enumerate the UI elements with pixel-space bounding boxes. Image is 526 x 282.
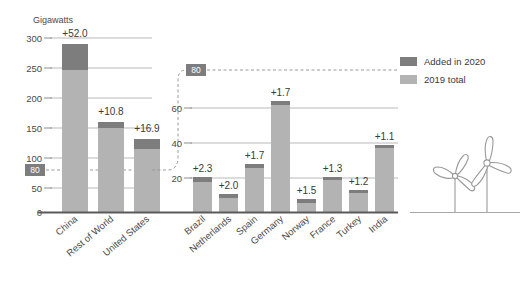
y-tick-250: 250 <box>26 63 42 74</box>
legend-swatch-added-2020 <box>400 57 417 66</box>
bar-china[interactable]: +52.0 <box>62 28 88 212</box>
bar-turkey[interactable]: +1.2 <box>349 176 369 212</box>
inset-category-labels: Brazil Netherlands Spain Germany Norway … <box>182 213 390 255</box>
inset-y-tick-20: 20 <box>171 173 182 184</box>
cat-france: France <box>308 213 338 240</box>
bar-turkey-delta: +1.2 <box>349 176 369 187</box>
y-tick-200: 200 <box>26 93 42 104</box>
legend-swatch-2019-total <box>400 75 417 84</box>
inset-y-tick-60: 60 <box>171 103 182 114</box>
inset-gridlines <box>190 108 398 178</box>
bar-germany[interactable]: +1.7 <box>271 87 291 212</box>
main-category-labels: China Rest of World United States <box>53 213 151 259</box>
bar-germany-delta: +1.7 <box>271 87 291 98</box>
legend-label-2019-total: 2019 total <box>424 74 466 85</box>
bar-united-states[interactable]: +16.9 <box>134 123 160 212</box>
bar-norway[interactable]: +1.5 <box>297 185 317 212</box>
legend: Added in 2020 2019 total <box>400 56 485 85</box>
y-tick-100: 100 <box>26 153 42 164</box>
y-axis-title: Gigawatts <box>33 15 74 25</box>
main-highlight-80: 80 <box>25 164 152 176</box>
bar-france-delta: +1.3 <box>323 163 343 174</box>
bar-brazil[interactable]: +2.3 <box>193 163 213 212</box>
cat-norway: Norway <box>280 213 312 242</box>
chart-canvas: Gigawatts 300 250 200 150 100 50 0 80 +5… <box>0 0 526 282</box>
cat-turkey: Turkey <box>334 213 363 240</box>
y-tick-150: 150 <box>26 123 42 134</box>
bar-india-delta: +1.1 <box>375 131 395 142</box>
bar-brazil-delta: +2.3 <box>193 163 213 174</box>
bar-spain[interactable]: +1.7 <box>245 150 265 212</box>
bar-china-delta: +52.0 <box>62 28 88 39</box>
bar-united-states-delta: +16.9 <box>134 123 160 134</box>
cat-india: India <box>366 213 389 235</box>
bar-netherlands[interactable]: +2.0 <box>219 180 239 212</box>
cat-china: China <box>53 213 80 238</box>
bar-netherlands-delta: +2.0 <box>219 180 239 191</box>
inset-bars: +2.3 +2.0 +1.7 +1.7 +1.5 +1.3 <box>193 87 395 212</box>
bar-france[interactable]: +1.3 <box>323 163 343 212</box>
main-bars: +52.0 +10.8 +16.9 <box>62 28 160 212</box>
inset-highlight-80: 80 <box>186 64 398 76</box>
y-tick-50: 50 <box>31 183 42 194</box>
y-tick-300: 300 <box>26 33 42 44</box>
legend-item-added-2020[interactable]: Added in 2020 <box>400 56 485 67</box>
inset-highlight-80-label: 80 <box>191 65 201 75</box>
wind-turbine-icon-left <box>433 155 474 212</box>
inset-tick-marks <box>184 108 192 178</box>
main-tick-marks <box>44 38 52 188</box>
bar-norway-delta: +1.5 <box>297 185 317 196</box>
bar-rest-of-world-delta: +10.8 <box>98 106 124 117</box>
legend-label-added-2020: Added in 2020 <box>424 56 485 67</box>
bar-rest-of-world[interactable]: +10.8 <box>98 106 124 212</box>
bar-spain-delta: +1.7 <box>245 150 265 161</box>
inset-y-tick-40: 40 <box>171 138 182 149</box>
legend-item-2019-total[interactable]: 2019 total <box>400 74 466 85</box>
wind-turbine-icon-right <box>472 137 511 212</box>
wind-capacity-chart: Gigawatts 300 250 200 150 100 50 0 80 +5… <box>0 0 526 282</box>
main-highlight-80-label: 80 <box>30 165 40 175</box>
wind-turbines-illustration <box>410 137 520 213</box>
